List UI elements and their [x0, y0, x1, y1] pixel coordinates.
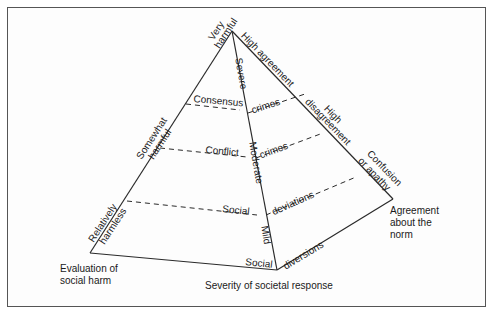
agreement-line-2: about the	[390, 217, 439, 229]
axis-line-2: social harm	[60, 275, 118, 287]
agreement-line-3: norm	[390, 229, 439, 241]
agreement-line-1: Agreement	[390, 205, 439, 217]
axis-title-social-harm: Evaluation of social harm	[60, 263, 118, 287]
axis-title-agreement: Agreement about the norm	[390, 205, 439, 241]
axis-line-1: Evaluation of	[60, 263, 118, 275]
axis-response-text: Severity of societal response	[205, 280, 333, 291]
axis-title-societal-response: Severity of societal response	[205, 280, 333, 292]
